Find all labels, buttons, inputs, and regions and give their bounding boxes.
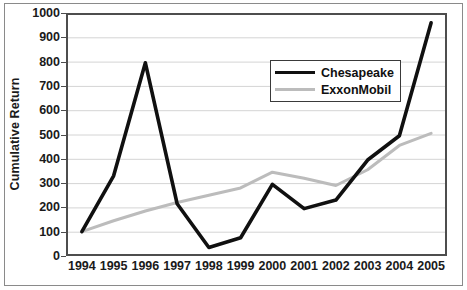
y-tick-label: 400 [39, 153, 60, 166]
y-tick-label: 200 [39, 201, 60, 214]
y-tick-mark [61, 37, 66, 38]
y-axis-tick-labels: 01002003004005006007008009001000 [24, 13, 60, 256]
x-tick-label: 2005 [417, 260, 445, 273]
y-tick-mark [61, 183, 66, 184]
y-tick-mark [61, 159, 66, 160]
chart-plot-svg [66, 13, 447, 256]
legend-item: ExxonMobil [275, 81, 394, 98]
x-tick-label: 1994 [68, 260, 96, 273]
x-tick-label: 2000 [258, 260, 286, 273]
y-tick-mark [61, 256, 66, 257]
chart-figure: Cumulative Return 0100200300400500600700… [0, 0, 467, 290]
x-tick-label: 1999 [227, 260, 255, 273]
y-tick-label: 0 [53, 250, 60, 263]
legend-line-swatch [275, 71, 315, 74]
plot-area [66, 13, 447, 256]
y-tick-mark [61, 135, 66, 136]
legend-line-swatch [275, 88, 315, 91]
y-tick-label: 900 [39, 31, 60, 44]
y-tick-mark [61, 110, 66, 111]
x-axis-tick-labels: 1994199519961997199819992000200120022003… [66, 260, 447, 280]
chart-legend: ChesapeakeExxonMobil [270, 60, 401, 102]
y-tick-mark [61, 232, 66, 233]
x-tick-label: 1998 [195, 260, 223, 273]
y-tick-mark [61, 62, 66, 63]
legend-label: ExxonMobil [321, 83, 391, 97]
x-tick-label: 1996 [131, 260, 159, 273]
x-tick-label: 1995 [100, 260, 128, 273]
y-tick-mark [61, 86, 66, 87]
x-tick-label: 2002 [322, 260, 350, 273]
y-tick-mark [61, 13, 66, 14]
y-tick-label: 100 [39, 225, 60, 238]
x-tick-label: 2001 [290, 260, 318, 273]
y-axis-title-label: Cumulative Return [8, 78, 22, 191]
x-tick-label: 1997 [163, 260, 191, 273]
legend-item: Chesapeake [275, 64, 394, 81]
y-tick-label: 300 [39, 177, 60, 190]
legend-label: Chesapeake [321, 66, 394, 80]
y-tick-mark [61, 207, 66, 208]
x-tick-label: 2003 [354, 260, 382, 273]
y-tick-label: 800 [39, 55, 60, 68]
y-tick-label: 700 [39, 80, 60, 93]
y-tick-label: 1000 [32, 7, 60, 20]
y-tick-label: 500 [39, 128, 60, 141]
x-tick-label: 2004 [385, 260, 413, 273]
y-tick-label: 600 [39, 104, 60, 117]
